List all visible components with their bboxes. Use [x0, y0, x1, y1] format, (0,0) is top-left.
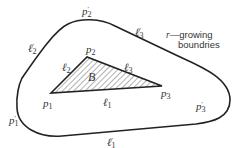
label-p2: p2: [86, 44, 96, 57]
label-p3-prime: p3′: [196, 101, 203, 114]
label-p2-prime: p2′: [82, 6, 89, 19]
annotation-growing-boundaries: r—growing boundries: [166, 30, 220, 51]
label-l3: ℓ3: [124, 62, 133, 75]
label-p1-prime: p1′: [9, 115, 16, 128]
label-p3: p3: [161, 88, 171, 101]
annotation-line1: growing: [179, 29, 212, 40]
label-l1-prime: ℓ1′: [107, 137, 113, 148]
annotation-dash: —: [170, 29, 180, 40]
annotation-line2: boundries: [166, 39, 220, 50]
label-region-b: B: [88, 71, 95, 83]
label-l2: ℓ2: [62, 62, 71, 75]
label-l2-prime: ℓ2′: [28, 43, 34, 56]
diagram-canvas: [0, 0, 240, 148]
label-l1: ℓ1: [103, 97, 112, 110]
label-p1: p1: [43, 98, 53, 111]
label-l3-prime: ℓ3′: [135, 27, 141, 40]
